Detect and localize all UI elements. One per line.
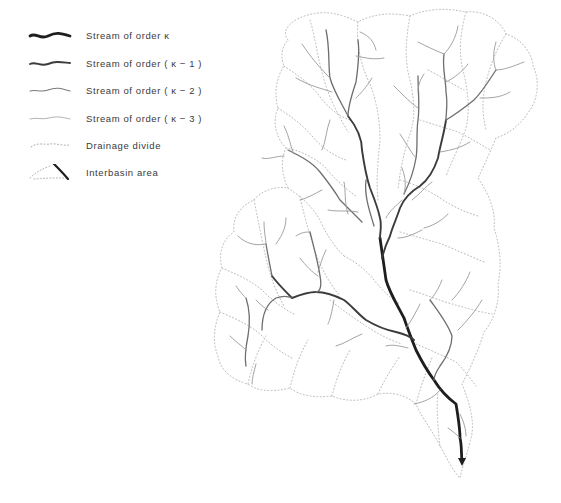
- outlet-arrow-icon: [458, 458, 466, 466]
- stream-order-k-minus-1: [292, 292, 414, 340]
- stream-order-k-minus-1: [382, 120, 446, 258]
- stream-order-k-minus-1: [348, 116, 381, 238]
- drainage-basin-map: [0, 0, 561, 503]
